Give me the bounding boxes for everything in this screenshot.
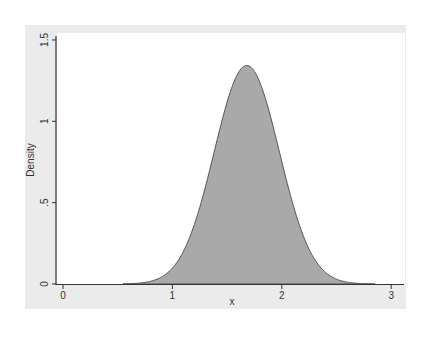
y-axis-label: Density [25,143,36,176]
y-tick-label: 1.5 [39,33,50,47]
y-tick-label: 0 [39,281,50,287]
x-tick-label: 0 [60,290,66,301]
y-tick-label: .5 [39,198,50,207]
density-chart: 0123 0.511.5 x Density [0,0,435,338]
y-tick-label: 1 [39,118,50,124]
x-tick-label: 3 [388,290,394,301]
x-axis-label: x [230,296,235,307]
x-tick-label: 1 [170,290,176,301]
x-tick-label: 2 [279,290,285,301]
